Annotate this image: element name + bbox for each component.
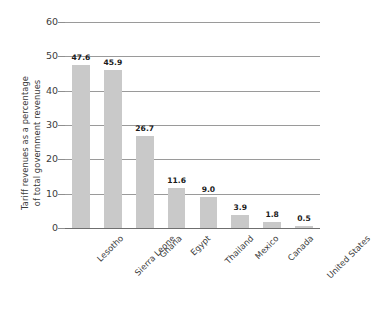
y-axis-title-line-2: of total government revenues <box>32 38 44 248</box>
bar[interactable] <box>200 197 218 228</box>
bar[interactable] <box>231 215 249 228</box>
y-axis-tick <box>58 194 65 195</box>
axis-baseline <box>65 228 320 229</box>
y-axis-tick-label: 60 <box>28 17 58 27</box>
bar-value-label: 26.7 <box>125 125 165 133</box>
y-axis-tick-label: 30 <box>28 120 58 130</box>
bar-value-label: 45.9 <box>93 59 133 67</box>
y-axis-tick <box>58 22 65 23</box>
y-axis-tick <box>58 228 65 229</box>
y-axis-tick <box>58 159 65 160</box>
plot-area: 47.645.926.711.69.03.91.80.5 <box>65 22 320 228</box>
x-axis-tick-label: Lesotho <box>96 234 125 263</box>
bar[interactable] <box>168 188 186 228</box>
x-axis-tick-label: Canada <box>287 234 315 262</box>
bar-value-label: 11.6 <box>157 177 197 185</box>
bar[interactable] <box>104 70 122 228</box>
x-axis-tick-label: Thailand <box>224 234 255 265</box>
y-axis-tick-label: 20 <box>28 154 58 164</box>
y-axis-tick-label: 10 <box>28 189 58 199</box>
y-axis-tick-label: 0 <box>28 223 58 233</box>
gridline <box>65 56 320 57</box>
bar-value-label: 0.5 <box>284 215 324 223</box>
y-axis-title-line-1: Tariff revenues as a percentage <box>20 38 32 248</box>
y-axis-title: Tariff revenues as a percentage of total… <box>20 38 50 248</box>
bar[interactable] <box>72 65 90 228</box>
x-axis-tick-label: Mexico <box>254 234 281 261</box>
y-axis-tick-label: 40 <box>28 86 58 96</box>
bar[interactable] <box>263 222 281 228</box>
x-axis-tick-label: Egypt <box>189 234 212 257</box>
x-axis-tick-label: United States <box>326 234 372 280</box>
y-axis-tick <box>58 125 65 126</box>
bar[interactable] <box>295 226 313 228</box>
bar[interactable] <box>136 136 154 228</box>
y-axis-tick <box>58 91 65 92</box>
bar-value-label: 9.0 <box>188 186 228 194</box>
gridline <box>65 22 320 23</box>
x-axis-tick-label: Ghana <box>158 234 183 259</box>
y-axis-tick-label: 50 <box>28 51 58 61</box>
